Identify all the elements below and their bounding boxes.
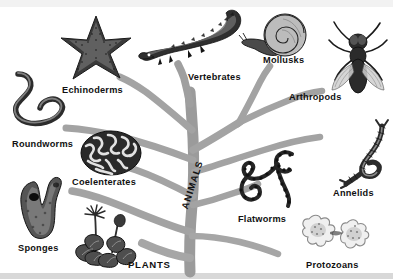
label-sponges: Sponges	[18, 244, 59, 253]
branch-protozoans	[192, 236, 278, 254]
brain-coral-illustration	[80, 130, 142, 176]
label-vertebrates: Vertebrates	[188, 73, 241, 82]
label-protozoans: Protozoans	[306, 261, 359, 270]
label-mollusks: Mollusks	[263, 56, 304, 65]
alligator-illustration	[138, 6, 248, 70]
branch-vertebrates	[178, 64, 190, 104]
branch-right-main	[193, 122, 240, 150]
amoeba-illustration	[297, 210, 377, 258]
label-flatworms: Flatworms	[238, 215, 286, 224]
label-arthropods: Arthropods	[289, 93, 342, 102]
branch-echinoderms	[120, 77, 192, 130]
label-coelenterates: Coelenterates	[72, 178, 136, 187]
label-roundworms: Roundworms	[12, 140, 73, 149]
label-annelids: Annelids	[333, 189, 374, 198]
fly-illustration	[326, 20, 390, 98]
roundworm-illustration	[8, 70, 72, 142]
diagram-canvas: Echinoderms Vertebrates	[0, 0, 393, 279]
sponge-illustration	[12, 175, 74, 241]
flatworm-illustration	[232, 148, 300, 212]
label-plants: PLANTS	[128, 260, 171, 270]
segmented-worm-illustration	[336, 122, 392, 190]
